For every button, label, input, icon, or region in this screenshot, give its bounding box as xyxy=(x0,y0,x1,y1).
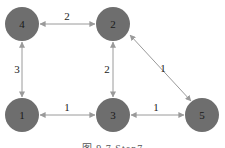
edge-weight-2-3: 2 xyxy=(104,63,110,75)
edge-weight-2-5: 1 xyxy=(160,62,166,74)
node-label: 5 xyxy=(199,109,205,121)
edge-weight-4-2: 2 xyxy=(64,10,70,22)
edge-weight-1-3: 1 xyxy=(64,101,70,113)
node-2: 2 xyxy=(96,7,130,41)
node-label: 3 xyxy=(110,109,116,121)
graph-diagram: 2 3 2 1 1 1 4 2 1 3 5 xyxy=(0,0,225,148)
node-4: 4 xyxy=(5,7,39,41)
edge-weight-3-5: 1 xyxy=(153,101,159,113)
node-label: 1 xyxy=(19,109,25,121)
node-1: 1 xyxy=(5,98,39,132)
node-label: 4 xyxy=(19,18,25,30)
figure-caption: 图 9.7 Step7 xyxy=(0,140,225,148)
edge-weight-4-1: 3 xyxy=(14,63,20,75)
node-5: 5 xyxy=(185,98,219,132)
node-3: 3 xyxy=(96,98,130,132)
node-label: 2 xyxy=(110,18,116,30)
